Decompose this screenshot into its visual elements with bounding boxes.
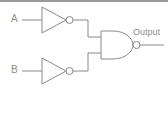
- nand-gate-body[interactable]: [101, 31, 133, 59]
- inverter-a-triangle[interactable]: [42, 7, 66, 33]
- wire-not-b-to-nand: [73, 53, 101, 71]
- inverter-b-bubble-icon: [66, 68, 73, 75]
- nand-gate-bubble-icon: [133, 42, 140, 49]
- label-input-a: A: [11, 14, 18, 24]
- circuit-diagram-canvas: A B Output: [0, 0, 168, 121]
- inverter-b-triangle[interactable]: [42, 58, 66, 84]
- inverter-a-bubble-icon: [66, 17, 73, 24]
- label-input-b: B: [11, 65, 18, 75]
- label-output: Output: [133, 28, 160, 37]
- wire-not-a-to-nand: [73, 20, 101, 37]
- logic-circuit-svg: [0, 0, 168, 121]
